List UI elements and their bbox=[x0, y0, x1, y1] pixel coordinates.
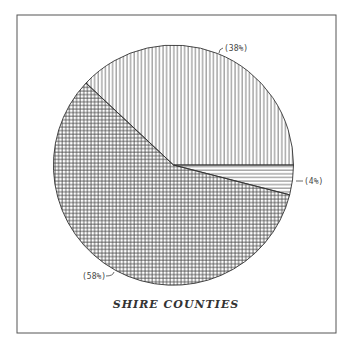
leader-line-38 bbox=[219, 48, 223, 53]
pie-chart: (38%) (4%) (58%) SHIRE COUNTIES bbox=[0, 0, 354, 343]
leader-line-58 bbox=[106, 272, 114, 276]
slice-label-4: (4%) bbox=[304, 177, 323, 186]
slice-label-58: (58%) bbox=[82, 272, 106, 281]
chart-title: SHIRE COUNTIES bbox=[113, 298, 239, 311]
slice-label-38: (38%) bbox=[224, 44, 248, 53]
